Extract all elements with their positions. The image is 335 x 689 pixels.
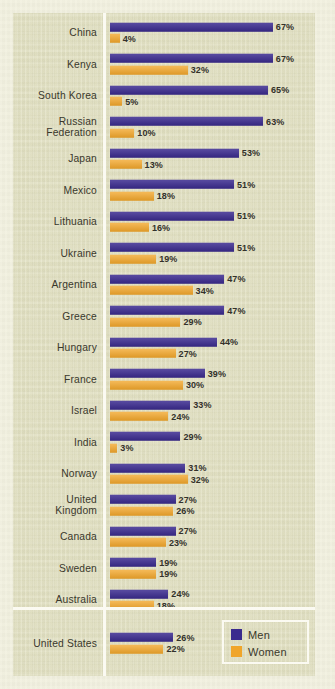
chart-row: France39%30% [13,364,315,396]
country-label: Lithuania [13,216,97,228]
bar-pair: 39%30% [110,369,315,390]
country-label: Australia [13,594,97,606]
bar-pair: 51%19% [110,243,315,264]
bar-pair: 33%24% [110,401,315,422]
bar-value-men: 67% [276,54,294,64]
bar-men: 51% [110,212,315,221]
bar-fill-men [110,54,273,63]
bar-men: 27% [110,495,315,504]
bar-fill-men [110,243,234,252]
bar-fill-men [110,558,156,567]
bar-fill-women [110,223,149,232]
bar-pair: 63%10% [110,117,315,138]
bar-fill-men [110,149,239,158]
bar-pair: 44%27% [110,338,315,359]
bar-fill-men [110,495,176,504]
bar-pair: 29%3% [110,432,315,453]
bar-fill-men [110,23,273,32]
bar-fill-women [110,412,168,421]
bar-value-women: 29% [183,317,201,327]
country-label: South Korea [13,90,97,102]
bar-fill-men [110,464,185,473]
bar-value-men: 65% [271,85,289,95]
chart-row: Norway31%32% [13,458,315,490]
bar-fill-women [110,444,117,453]
country-label: Greece [13,311,97,323]
bar-value-men: 29% [183,432,201,442]
chart-row: Sweden19%19% [13,553,315,585]
bar-fill-men [110,117,263,126]
bar-value-men: 26% [176,633,194,643]
chart-row: Australia24%18% [13,584,315,616]
bar-value-women: 19% [159,254,177,264]
bar-value-men: 53% [242,148,260,158]
bar-women: 23% [110,538,315,547]
bar-value-women: 16% [152,223,170,233]
bar-fill-women [110,475,188,484]
chart-row: Japan53%13% [13,143,315,175]
bar-fill-men [110,86,268,95]
country-label: Japan [13,153,97,165]
bar-women: 5% [110,97,315,106]
bar-men: 44% [110,338,315,347]
chart-panel: China67%4%Kenya67%32%South Korea65%5%Rus… [13,13,315,676]
chart-row: Greece47%29% [13,301,315,333]
chart-row: Hungary44%27% [13,332,315,364]
bar-value-men: 47% [227,274,245,284]
bar-value-men: 24% [171,589,189,599]
bar-value-women: 27% [179,349,197,359]
bar-fill-women [110,538,166,547]
bar-women: 32% [110,475,315,484]
bar-fill-women [110,645,163,654]
country-label: Kenya [13,59,97,71]
country-label: Mexico [13,185,97,197]
bar-value-men: 63% [266,117,284,127]
bar-women: 19% [110,255,315,264]
bar-pair: 67%32% [110,54,315,75]
bar-men: 29% [110,432,315,441]
bar-value-women: 23% [169,538,187,548]
bar-women: 16% [110,223,315,232]
bar-value-women: 22% [166,644,184,654]
bar-value-men: 51% [237,180,255,190]
bar-men: 65% [110,86,315,95]
chart-row: Argentina47%34% [13,269,315,301]
bar-men: 19% [110,558,315,567]
chart-row: South Korea65%5% [13,80,315,112]
chart-row: Ukraine51%19% [13,238,315,270]
bar-fill-men [110,633,173,642]
bar-fill-men [110,275,224,284]
bar-value-women: 4% [123,34,136,44]
legend-label-women: Women [248,646,287,658]
bar-value-men: 47% [227,306,245,316]
bar-value-men: 27% [179,495,197,505]
bar-fill-women [110,507,173,516]
bar-women: 24% [110,412,315,421]
bar-fill-women [110,129,134,138]
bar-value-women: 26% [176,506,194,516]
bar-women: 34% [110,286,315,295]
legend-swatch-women-icon [231,646,242,657]
bar-fill-men [110,401,190,410]
legend-item-women: Women [231,643,307,660]
country-label: Canada [13,531,97,543]
bar-value-men: 33% [193,400,211,410]
bar-women: 10% [110,129,315,138]
bar-fill-men [110,306,224,315]
country-label: Norway [13,468,97,480]
bar-fill-women [110,255,156,264]
bar-fill-women [110,192,154,201]
bar-men: 39% [110,369,315,378]
chart-row: Lithuania51%16% [13,206,315,238]
chart-row: Canada27%23% [13,521,315,553]
bar-fill-men [110,338,217,347]
bar-men: 67% [110,23,315,32]
country-label: India [13,437,97,449]
country-label: Russian Federation [13,116,97,139]
bar-men: 47% [110,275,315,284]
bar-value-men: 19% [159,558,177,568]
bar-men: 24% [110,590,315,599]
bar-fill-men [110,527,176,536]
bar-men: 51% [110,180,315,189]
bar-fill-men [110,180,234,189]
